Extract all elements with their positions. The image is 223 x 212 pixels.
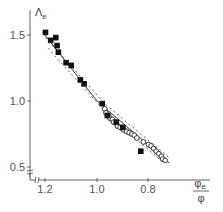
scatter-chart: 1.5 1.0 0.5 Λe 1.2 1.0 0.8 φe φ <box>0 0 223 212</box>
svg-text:φe: φe <box>194 177 206 191</box>
y-tick-1-5: 1.5 <box>10 29 25 41</box>
open-circle-point <box>135 136 140 141</box>
x-axis: 1.2 1.0 0.8 φe φ <box>30 177 210 204</box>
x-tick-1-2: 1.2 <box>37 183 52 195</box>
y-axis-label: Λe <box>35 6 47 21</box>
y-tick-0-5: 0.5 <box>10 161 25 173</box>
filled-square-point <box>105 113 111 119</box>
axis-break-marks <box>27 170 39 183</box>
dashed-bound-line <box>46 38 170 158</box>
filled-square-point <box>99 101 105 107</box>
x-axis-label: φe φ <box>193 177 209 204</box>
x-tick-0-8: 0.8 <box>140 183 155 195</box>
filled-square-point <box>56 49 62 55</box>
filled-square-point <box>120 125 126 131</box>
filled-square-point <box>53 35 59 41</box>
open-circle-point <box>141 140 146 145</box>
open-circle-point <box>163 158 168 163</box>
data-points <box>43 30 168 163</box>
filled-square-point <box>63 60 69 66</box>
y-axis: 1.5 1.0 0.5 Λe <box>10 6 48 178</box>
svg-text:φ: φ <box>197 192 204 204</box>
x-tick-1-0: 1.0 <box>89 183 104 195</box>
filled-square-point <box>54 43 60 49</box>
filled-square-point <box>138 148 144 154</box>
y-tick-1-0: 1.0 <box>10 95 25 107</box>
filled-square-point <box>43 30 49 36</box>
filled-square-point <box>48 38 54 44</box>
filled-square-point <box>68 63 74 69</box>
filled-square-point <box>114 119 120 125</box>
filled-square-point <box>81 81 87 87</box>
